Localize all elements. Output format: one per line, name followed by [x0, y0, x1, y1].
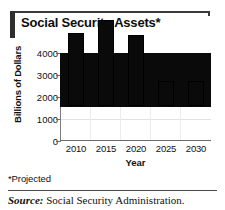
axes: [60, 53, 211, 141]
bar-2020: [128, 35, 144, 106]
gridline: [60, 119, 211, 120]
bar-series: [60, 53, 211, 107]
title-accent-bar: [10, 11, 15, 38]
source-line: Source: Social Security Administration.: [8, 194, 185, 206]
source-divider: [8, 190, 217, 191]
x-tick-label: 2025: [151, 143, 181, 154]
x-axis-line: [60, 140, 211, 141]
bar-2025: [158, 81, 174, 106]
source-text: Social Security Administration.: [46, 194, 184, 206]
source-label: Source:: [8, 194, 43, 206]
y-tick-label: 1000: [32, 115, 58, 124]
y-axis-label: Billions of Dollars: [12, 37, 23, 133]
bar-2030: [188, 81, 204, 106]
y-tick-label: 3000: [32, 71, 58, 80]
x-tick-label: 2020: [121, 143, 151, 154]
y-tick-label: 0: [32, 137, 58, 146]
y-tick-label: 4000: [32, 49, 58, 58]
y-tick-mark: [56, 141, 60, 142]
y-axis-tick-labels: 4000 3000 2000 1000 0: [29, 45, 58, 141]
chart-figure: Social Security Assets* Billions of Doll…: [0, 0, 225, 210]
x-axis-label: Year: [60, 157, 211, 168]
plot-area: Billions of Dollars 4000 3000 2000 1000 …: [0, 45, 225, 165]
y-tick-mark: [56, 119, 60, 120]
x-axis-tick-labels: 2010 2015 2020 2025 2030: [60, 143, 211, 155]
title-top-rule: [12, 11, 210, 13]
x-tick-label: 2030: [181, 143, 211, 154]
bar-2010: [68, 33, 84, 106]
x-tick-label: 2015: [91, 143, 121, 154]
y-tick-label: 2000: [32, 93, 58, 102]
x-tick-label: 2010: [61, 143, 91, 154]
chart-title: Social Security Assets*: [21, 15, 160, 30]
chart-footnote: *Projected: [8, 173, 51, 184]
bar-2015: [98, 20, 114, 106]
